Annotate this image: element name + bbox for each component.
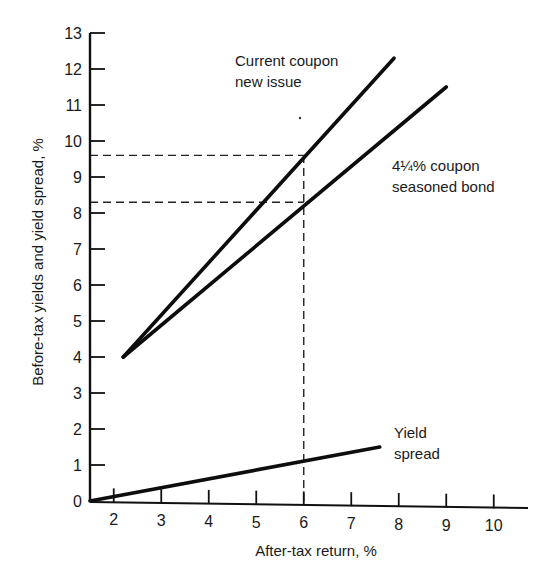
scan-speck [299, 117, 301, 119]
series-annotations: Current couponnew issue4¼% couponseasone… [235, 52, 495, 462]
y-tick-label: 5 [73, 313, 82, 330]
series-label: 4¼% coupon [392, 157, 480, 174]
series-label: seasoned bond [392, 178, 495, 195]
y-tick-label: 12 [64, 61, 82, 78]
x-tick-label: 7 [347, 515, 356, 532]
y-tick-label: 8 [73, 205, 82, 222]
reference-dashed-lines [90, 155, 304, 501]
y-tick-label: 3 [73, 385, 82, 402]
x-tick-label: 10 [485, 517, 503, 534]
y-axis-label: Before-tax yields and yield spread, % [29, 138, 46, 386]
x-tick-label: 3 [157, 512, 166, 529]
x-tick-label: 9 [442, 517, 451, 534]
series-label: Yield [394, 424, 427, 441]
series-label: spread [394, 445, 440, 462]
series-line-1 [123, 58, 394, 357]
x-tick-label: 4 [204, 513, 213, 530]
series-line-2 [123, 87, 446, 357]
x-axis-line [90, 502, 528, 508]
y-tick-label: 13 [64, 25, 82, 42]
data-series [90, 58, 446, 501]
x-tick-label: 8 [394, 516, 403, 533]
y-tick-label: 0 [73, 493, 82, 510]
series-line-3 [90, 447, 380, 501]
y-tick-label: 4 [73, 349, 82, 366]
x-tick-label: 5 [252, 514, 261, 531]
series-label: Current coupon [235, 52, 338, 69]
y-tick-label: 1 [73, 457, 82, 474]
y-tick-label: 7 [73, 241, 82, 258]
y-tick-label: 2 [73, 421, 82, 438]
axes: 0123456789101112132345678910 [64, 25, 528, 534]
series-label: new issue [235, 73, 302, 90]
y-tick-label: 10 [64, 133, 82, 150]
x-axis-label: After-tax return, % [255, 542, 377, 559]
chart-canvas: 0123456789101112132345678910 Current cou… [0, 0, 553, 573]
y-tick-label: 6 [73, 277, 82, 294]
y-tick-label: 11 [65, 97, 82, 114]
y-tick-label: 9 [73, 169, 82, 186]
x-tick-label: 2 [109, 511, 118, 528]
x-tick-label: 6 [299, 514, 308, 531]
